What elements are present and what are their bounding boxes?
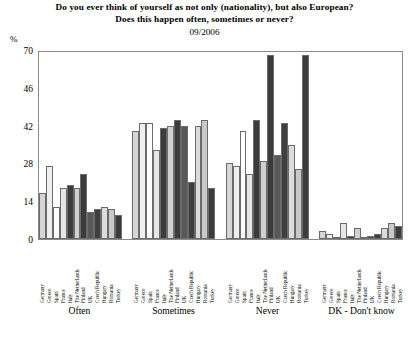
- y-axis-unit-label: %: [10, 34, 18, 44]
- bar: [295, 169, 302, 239]
- country-label: Germany: [320, 241, 327, 303]
- y-axis-tick-0: 0: [1, 235, 33, 245]
- bar: [347, 236, 354, 239]
- group-label-spacer: [121, 305, 132, 323]
- country-labels-4: GermanyGreeceSpainFranceItalyThe Netherl…: [320, 241, 403, 303]
- country-label: Spain: [146, 241, 153, 303]
- bar: [87, 212, 94, 239]
- country-label: Greece: [327, 241, 334, 303]
- bar: [233, 166, 240, 239]
- bar: [374, 234, 381, 239]
- bar: [302, 55, 309, 239]
- bar: [195, 126, 202, 239]
- group-spacer: [122, 52, 133, 239]
- bar: [319, 231, 326, 239]
- country-label: Turkey: [396, 241, 403, 303]
- country-label: Romania: [295, 241, 302, 303]
- bar: [333, 237, 340, 239]
- bar: [201, 120, 208, 239]
- country-label: Romania: [107, 241, 114, 303]
- country-label: Turkey: [114, 241, 121, 303]
- bar: [39, 193, 46, 239]
- y-axis-tick-14: 14: [1, 197, 33, 207]
- bar: [188, 182, 195, 239]
- bar: [326, 234, 333, 239]
- country-label: Italy: [348, 241, 355, 303]
- bar: [226, 163, 233, 239]
- group-label-layer: OftenSometimesNeverDK - Don't know: [38, 305, 403, 323]
- plot-area: [38, 51, 403, 240]
- country-label: Romania: [201, 241, 208, 303]
- country-label: Germany: [132, 241, 139, 303]
- bars-layer: [39, 52, 402, 239]
- group-label-spacer: [215, 305, 226, 323]
- bar-group-often: [39, 52, 122, 239]
- country-label: Spain: [334, 241, 341, 303]
- bar: [108, 209, 115, 239]
- bar: [288, 145, 295, 240]
- chart-date: 09/2006: [0, 26, 409, 38]
- bar: [253, 120, 260, 239]
- country-label: France: [341, 241, 348, 303]
- bar: [74, 188, 81, 239]
- bar: [388, 223, 395, 239]
- y-axis-tick-46: 46: [1, 84, 33, 94]
- group-label-spacer: [309, 305, 320, 323]
- bar-group-dk-don-t-know: [319, 52, 402, 239]
- chart-title-block: Do you ever think of yourself as not onl…: [0, 2, 409, 38]
- group-spacer: [215, 52, 226, 239]
- country-label: Romania: [389, 241, 396, 303]
- y-axis-tick-28: 28: [1, 159, 33, 169]
- country-label-spacer: [121, 241, 132, 303]
- country-labels-3: GermanyGreeceSpainFranceItalyThe Netherl…: [226, 241, 309, 303]
- country-labels-2: GermanyGreeceSpainFranceItalyThe Netherl…: [132, 241, 215, 303]
- bar: [240, 131, 247, 239]
- bar: [139, 123, 146, 239]
- bar: [260, 161, 267, 239]
- bar: [115, 215, 122, 239]
- group-label-1: Often: [38, 305, 121, 323]
- bar: [132, 131, 139, 239]
- bar: [174, 120, 181, 239]
- bar: [340, 223, 347, 239]
- country-label: Germany: [38, 241, 45, 303]
- bar: [46, 166, 53, 239]
- country-label: Italy: [66, 241, 73, 303]
- bar: [246, 174, 253, 239]
- bar: [208, 188, 215, 239]
- country-label: Germany: [226, 241, 233, 303]
- group-label-2: Sometimes: [132, 305, 215, 323]
- group-label-3: Never: [226, 305, 309, 323]
- country-label: France: [153, 241, 160, 303]
- country-label: Spain: [52, 241, 59, 303]
- y-axis-tick-42: 42: [1, 122, 33, 132]
- country-label: Greece: [233, 241, 240, 303]
- bar: [60, 188, 67, 239]
- bar: [281, 123, 288, 239]
- bar-group-sometimes: [132, 52, 215, 239]
- country-label: France: [247, 241, 254, 303]
- country-label-spacer: [215, 241, 226, 303]
- bar: [267, 55, 274, 239]
- bar: [101, 207, 108, 239]
- group-spacer: [309, 52, 320, 239]
- country-labels-1: GermanyGreeceSpainFranceItalyThe Netherl…: [38, 241, 121, 303]
- country-label: Turkey: [302, 241, 309, 303]
- bar: [80, 174, 87, 239]
- country-label: Italy: [254, 241, 261, 303]
- bar: [367, 236, 374, 239]
- country-label: Turkey: [208, 241, 215, 303]
- bar: [395, 226, 402, 240]
- bar: [67, 185, 74, 239]
- country-label: Greece: [45, 241, 52, 303]
- bar: [381, 228, 388, 239]
- y-axis-tick-70: 70: [1, 46, 33, 56]
- bar: [274, 155, 281, 239]
- bar: [146, 123, 153, 239]
- country-label: Spain: [240, 241, 247, 303]
- country-label: Greece: [139, 241, 146, 303]
- bar: [153, 150, 160, 239]
- bar: [354, 228, 361, 239]
- group-label-4: DK - Don't know: [320, 305, 403, 323]
- bar: [160, 128, 167, 239]
